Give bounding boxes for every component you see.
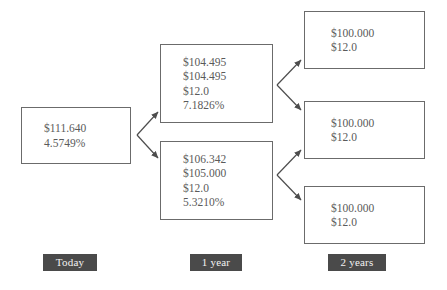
node-year2-middle[interactable]: $100.000 $12.0	[304, 101, 425, 159]
node-year2-middle-content: $100.000 $12.0	[305, 116, 374, 145]
node-year2-top-line-1: $100.000	[331, 26, 374, 41]
node-year2-bottom-content: $100.000 $12.0	[305, 201, 374, 230]
node-year2-bottom[interactable]: $100.000 $12.0	[304, 186, 425, 244]
node-year1-up-line-3: $12.0	[183, 84, 226, 99]
node-year1-up-line-2: $104.495	[183, 69, 226, 84]
edge-year1-up-to-year2-top	[277, 60, 301, 85]
node-root[interactable]: $111.640 4.5749%	[21, 107, 131, 164]
node-year1-up-content: $104.495 $104.495 $12.0 7.1826%	[161, 55, 226, 113]
time-label-two-years: 2 years	[328, 254, 386, 271]
edge-year1-up-to-year2-middle	[277, 85, 301, 110]
node-root-line-2: 4.5749%	[44, 136, 86, 151]
time-label-one-year: 1 year	[190, 254, 242, 271]
edge-year1-down-to-year2-bottom	[277, 175, 301, 200]
node-year1-up[interactable]: $104.495 $104.495 $12.0 7.1826%	[160, 44, 273, 123]
node-root-line-1: $111.640	[44, 121, 86, 136]
node-year1-down-line-3: $12.0	[183, 181, 226, 196]
node-year1-up-line-1: $104.495	[183, 55, 226, 70]
edge-year1-down-to-year2-middle	[277, 150, 301, 175]
time-label-today: Today	[43, 254, 97, 271]
node-year1-up-line-4: 7.1826%	[183, 98, 226, 113]
node-year2-middle-line-1: $100.000	[331, 116, 374, 131]
node-year1-down[interactable]: $106.342 $105.000 $12.0 5.3210%	[160, 141, 273, 220]
node-year2-top-line-2: $12.0	[331, 40, 374, 55]
edge-root-to-year1-up	[137, 112, 158, 135]
node-year1-down-line-2: $105.000	[183, 166, 226, 181]
node-year2-top[interactable]: $100.000 $12.0	[304, 11, 425, 69]
node-year2-middle-line-2: $12.0	[331, 130, 374, 145]
binomial-tree-diagram: $111.640 4.5749% $104.495 $104.495 $12.0…	[0, 0, 447, 290]
node-year1-down-content: $106.342 $105.000 $12.0 5.3210%	[161, 152, 226, 210]
node-year2-bottom-line-2: $12.0	[331, 215, 374, 230]
node-year1-down-line-4: 5.3210%	[183, 195, 226, 210]
node-year2-bottom-line-1: $100.000	[331, 201, 374, 216]
node-root-content: $111.640 4.5749%	[22, 121, 86, 150]
edge-root-to-year1-down	[137, 135, 158, 158]
node-year1-down-line-1: $106.342	[183, 152, 226, 167]
node-year2-top-content: $100.000 $12.0	[305, 26, 374, 55]
